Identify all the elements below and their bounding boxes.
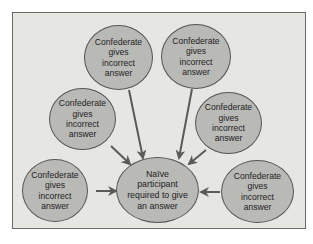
confederate-node-top-right: Confederate gives incorrect answer bbox=[161, 24, 231, 89]
arrow-top-right bbox=[179, 89, 192, 158]
node-label: Confederate gives incorrect answer bbox=[95, 37, 142, 78]
conformity-diagram: Confederate gives incorrect answer Confe… bbox=[0, 0, 313, 244]
naive-participant-node: Naïve participant required to give an an… bbox=[116, 157, 199, 223]
node-label: Confederate gives incorrect answer bbox=[31, 170, 78, 211]
confederate-node-top-left: Confederate gives incorrect answer bbox=[84, 25, 153, 90]
node-label: Confederate gives incorrect answer bbox=[205, 102, 252, 143]
confederate-node-middle-left: Confederate gives incorrect answer bbox=[49, 88, 116, 150]
arrow-top-left bbox=[129, 90, 143, 158]
confederate-node-middle-right: Confederate gives incorrect answer bbox=[195, 92, 262, 154]
confederate-node-bottom-right: Confederate gives incorrect answer bbox=[221, 160, 294, 223]
arrow-middle-left bbox=[111, 146, 130, 164]
arrow-middle-right bbox=[189, 150, 206, 164]
node-label: Confederate gives incorrect answer bbox=[59, 98, 106, 139]
node-label: Confederate gives incorrect answer bbox=[234, 171, 281, 212]
node-label: Naïve participant required to give an an… bbox=[127, 169, 188, 211]
node-label: Confederate gives incorrect answer bbox=[172, 36, 219, 77]
confederate-node-bottom-left: Confederate gives incorrect answer bbox=[22, 159, 88, 222]
